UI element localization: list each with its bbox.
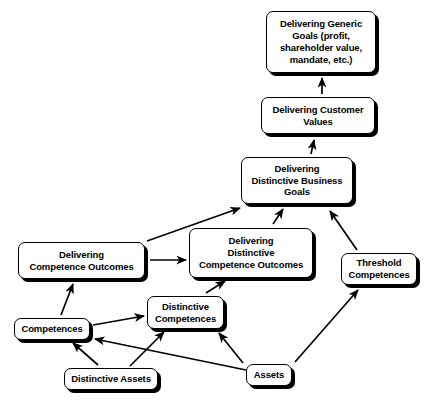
node-competence-outcomes[interactable]: Delivering Competence Outcomes <box>18 242 145 279</box>
arrow-assets-to-competences <box>95 339 246 370</box>
arrow-assets-to-threshold-competences <box>295 290 358 362</box>
node-label-distinctive-competences: Distinctive Competences <box>155 301 216 325</box>
node-distinctive-competences[interactable]: Distinctive Competences <box>147 296 224 329</box>
node-business-goals[interactable]: Delivering Distinctive Business Goals <box>241 157 353 204</box>
node-label-business-goals: Delivering Distinctive Business Goals <box>252 163 343 198</box>
node-label-generic-goals: Delivering Generic Goals (profit, shareh… <box>280 18 362 65</box>
node-distinctive-assets[interactable]: Distinctive Assets <box>64 368 158 390</box>
arrow-distinctive-competences-to-distinctive-competence-outcomes <box>206 281 225 293</box>
arrow-competences-to-competence-outcomes <box>61 284 73 315</box>
node-label-distinctive-competence-outcomes: Delivering Distinctive Competence Outcom… <box>199 235 303 270</box>
node-assets[interactable]: Assets <box>246 364 292 386</box>
node-label-assets: Assets <box>254 369 285 381</box>
arrow-distinctive-competence-outcomes-to-business-goals <box>273 209 283 224</box>
arrow-assets-to-distinctive-competences <box>219 333 243 363</box>
node-label-distinctive-assets: Distinctive Assets <box>71 373 151 385</box>
node-threshold-competences[interactable]: Threshold Competences <box>341 253 417 285</box>
node-label-customer-values: Delivering Customer Values <box>272 104 363 128</box>
arrow-competences-to-distinctive-competences <box>93 316 144 325</box>
node-distinctive-competence-outcomes[interactable]: Delivering Distinctive Competence Outcom… <box>189 228 313 278</box>
node-label-competences: Competences <box>21 323 82 335</box>
node-label-threshold-competences: Threshold Competences <box>348 257 409 281</box>
arrow-distinctive-assets-to-competences <box>73 343 98 365</box>
node-generic-goals[interactable]: Delivering Generic Goals (profit, shareh… <box>266 11 376 73</box>
arrow-business-goals-to-customer-values <box>311 140 314 154</box>
node-customer-values[interactable]: Delivering Customer Values <box>261 97 375 134</box>
diagram-canvas: Delivering Generic Goals (profit, shareh… <box>0 0 433 415</box>
arrow-threshold-competences-to-business-goals <box>330 211 357 250</box>
node-competences[interactable]: Competences <box>14 318 90 340</box>
node-label-competence-outcomes: Delivering Competence Outcomes <box>29 249 133 273</box>
